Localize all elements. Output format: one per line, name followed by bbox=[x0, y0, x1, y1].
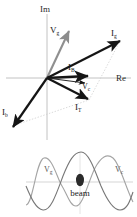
figure-root: Im Re Vg Ig IB Vc IT Ib bbox=[0, 0, 137, 217]
phasor-vc-label: Vc bbox=[82, 82, 91, 92]
waveform-vc-label: Vc bbox=[115, 165, 124, 175]
beam-marker-icon bbox=[76, 174, 84, 186]
phasor-diagram: Im Re Vg Ig IB Vc IT Ib bbox=[2, 4, 131, 140]
phasor-vg-arrow bbox=[47, 31, 69, 78]
construction-lines bbox=[12, 41, 120, 126]
real-axis-label: Re bbox=[116, 73, 126, 83]
waveform-vg-label: Vg bbox=[44, 165, 53, 175]
imaginary-axis-label: Im bbox=[40, 4, 50, 14]
phasor-ig-arrow bbox=[47, 41, 120, 78]
waveform-plot: Vg Vc beam bbox=[26, 152, 133, 214]
beam-label: beam bbox=[70, 188, 90, 198]
phasor-ig-label: Ig bbox=[111, 28, 117, 39]
figure-canvas: Im Re Vg Ig IB Vc IT Ib bbox=[0, 0, 137, 217]
phasor-ib-beam-label: Ib bbox=[2, 107, 8, 118]
phasor-vg-label: Vg bbox=[50, 25, 60, 36]
